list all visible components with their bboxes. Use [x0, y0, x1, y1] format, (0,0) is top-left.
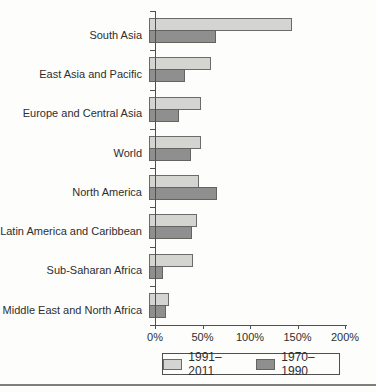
bar-1970-1990: [149, 266, 163, 279]
legend-item-1991-2011: 1991–2011: [163, 350, 245, 378]
bar-group: [149, 57, 376, 83]
legend-swatch-1970-1990: [256, 359, 275, 370]
bar-group: [149, 253, 376, 279]
chart-row: Sub-Saharan Africa: [0, 247, 376, 286]
category-label: Latin America and Caribbean: [0, 226, 149, 238]
y-tick: [150, 50, 155, 51]
y-tick: [150, 90, 155, 91]
x-tick: [155, 325, 156, 329]
bar-group: [149, 135, 376, 161]
chart-row: South Asia: [0, 11, 376, 50]
bar-1970-1990: [149, 305, 166, 318]
category-label: South Asia: [0, 30, 149, 42]
x-tick: [345, 325, 346, 329]
category-label: Europe and Central Asia: [0, 108, 149, 120]
legend-item-1970-1990: 1970–1990: [256, 350, 339, 378]
chart-row: Middle East and North Africa: [0, 286, 376, 325]
y-tick: [150, 207, 155, 208]
chart-row: Europe and Central Asia: [0, 90, 376, 129]
y-tick: [150, 247, 155, 248]
y-tick: [150, 129, 155, 130]
chart-rows: South AsiaEast Asia and PacificEurope an…: [0, 11, 376, 325]
y-axis-line: [155, 11, 156, 325]
bar-1970-1990: [149, 109, 179, 122]
legend: 1991–2011 1970–1990: [162, 353, 340, 375]
legend-swatch-1991-2011: [163, 359, 182, 370]
bar-group: [149, 96, 376, 122]
x-tick: [203, 325, 204, 329]
bar-chart-figure: South AsiaEast Asia and PacificEurope an…: [0, 0, 376, 392]
x-tick: [298, 325, 299, 329]
bar-group: [149, 292, 376, 318]
category-label: North America: [0, 187, 149, 199]
x-tick-label: 50%: [191, 331, 213, 343]
x-tick-label: 0%: [147, 331, 163, 343]
bottom-divider-rule: [0, 384, 376, 386]
bar-group: [149, 175, 376, 201]
y-tick: [150, 286, 155, 287]
chart-row: World: [0, 129, 376, 168]
bar-1970-1990: [149, 30, 216, 43]
x-tick-label: 200%: [331, 331, 359, 343]
x-tick-label: 150%: [283, 331, 311, 343]
legend-label-1970-1990: 1970–1990: [281, 350, 339, 378]
category-label: World: [0, 148, 149, 160]
x-tick: [250, 325, 251, 329]
bar-group: [149, 18, 376, 44]
bar-group: [149, 214, 376, 240]
y-tick: [150, 168, 155, 169]
category-label: Middle East and North Africa: [0, 305, 149, 317]
category-label: Sub-Saharan Africa: [0, 265, 149, 277]
legend-label-1991-2011: 1991–2011: [188, 350, 245, 378]
chart-row: East Asia and Pacific: [0, 50, 376, 89]
chart-row: North America: [0, 168, 376, 207]
chart-row: Latin America and Caribbean: [0, 207, 376, 246]
x-tick-label: 100%: [236, 331, 264, 343]
bar-1970-1990: [149, 187, 217, 200]
y-tick: [150, 11, 155, 12]
category-label: East Asia and Pacific: [0, 69, 149, 81]
